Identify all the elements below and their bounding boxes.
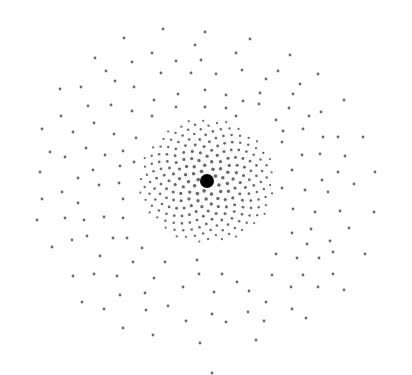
dot: [168, 167, 171, 170]
dot: [291, 232, 294, 235]
dot: [265, 176, 267, 178]
dot: [241, 199, 244, 202]
dot: [242, 206, 245, 209]
dot: [362, 136, 365, 139]
dot: [233, 203, 236, 206]
dot: [165, 187, 168, 190]
dot: [153, 187, 156, 190]
dot: [87, 105, 90, 108]
dot: [265, 78, 268, 81]
dot: [162, 138, 164, 140]
dot: [210, 149, 213, 152]
dot: [166, 153, 169, 156]
dot: [177, 93, 180, 96]
dot: [216, 224, 219, 227]
dot: [236, 164, 239, 167]
dot: [159, 145, 161, 147]
dot: [122, 150, 125, 153]
dot: [172, 172, 175, 175]
dot: [233, 186, 236, 189]
dot: [343, 289, 346, 292]
dot: [239, 141, 242, 144]
dot: [208, 140, 211, 143]
dot: [175, 60, 178, 63]
dot: [172, 199, 175, 202]
dot: [215, 234, 217, 236]
dot: [140, 178, 142, 180]
dot: [105, 70, 108, 73]
dot: [249, 199, 252, 202]
dot: [188, 213, 191, 216]
dot: [256, 214, 258, 216]
dot: [179, 192, 182, 195]
dot: [207, 209, 210, 212]
dot: [64, 217, 67, 220]
dot: [93, 122, 96, 125]
dot: [92, 169, 95, 172]
dot: [194, 44, 197, 47]
dot: [61, 191, 64, 194]
dot: [154, 198, 157, 201]
dot: [211, 372, 214, 375]
dot: [317, 73, 320, 76]
dot: [249, 38, 252, 41]
dot: [151, 155, 153, 157]
dot: [332, 251, 335, 254]
dot: [167, 146, 170, 149]
dot: [64, 156, 67, 159]
dot: [181, 134, 184, 137]
dot: [213, 291, 216, 294]
dot: [221, 176, 225, 180]
dot: [290, 286, 293, 289]
dot: [122, 217, 125, 220]
dot: [190, 157, 193, 160]
dot: [118, 182, 121, 185]
dot: [165, 227, 167, 229]
dot: [202, 189, 206, 193]
dot: [210, 160, 213, 163]
dot: [337, 171, 340, 174]
dot: [182, 151, 185, 154]
dot: [234, 227, 236, 229]
dot: [196, 192, 200, 196]
dot: [252, 154, 255, 157]
dot: [215, 137, 218, 140]
dot: [239, 181, 242, 184]
dot: [225, 121, 227, 123]
dot: [225, 94, 228, 97]
dot: [235, 235, 237, 237]
dot: [207, 125, 209, 127]
dot: [216, 197, 219, 200]
dot: [168, 206, 171, 209]
dot: [264, 196, 266, 198]
dot: [235, 171, 238, 174]
dot: [185, 320, 188, 323]
dot: [228, 127, 230, 129]
dot: [242, 174, 245, 177]
dot: [281, 141, 284, 144]
dot: [314, 211, 317, 214]
dot: [182, 286, 185, 289]
dot: [265, 204, 267, 206]
dot: [39, 171, 42, 174]
dot: [110, 104, 113, 107]
dot: [220, 219, 223, 222]
dot: [343, 99, 346, 102]
dot: [247, 143, 249, 145]
dot: [133, 161, 136, 164]
dot: [196, 199, 199, 202]
dot: [187, 128, 189, 130]
dot: [227, 190, 230, 193]
dot: [194, 124, 196, 126]
dot: [141, 247, 144, 250]
dot: [245, 150, 248, 153]
dot: [144, 292, 147, 295]
dot: [188, 221, 191, 224]
dot: [269, 158, 271, 160]
dot: [224, 198, 227, 201]
dot: [255, 339, 258, 342]
dot: [71, 239, 74, 242]
dot: [262, 152, 264, 154]
dot: [250, 207, 253, 210]
dot: [151, 115, 154, 118]
